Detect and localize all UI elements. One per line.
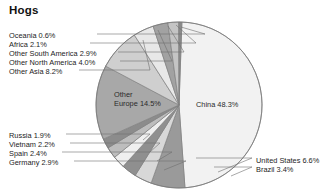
pie-label: Brazil 3.4% [256,165,293,174]
pie-label: Russia 1.9% [9,131,51,140]
pie-label: Germany 2.9% [9,158,58,167]
pie-label: Africa 2.1% [9,40,47,49]
pie-label-inside: China 48.3% [196,100,238,109]
pie-label: Spain 2.4% [9,149,47,158]
pie-label: Other South America 2.9% [9,49,97,58]
pie-label-inside: Other [114,90,132,99]
pie-label: United States 6.6% [256,156,319,165]
pie-label: Other North America 4.0% [9,58,95,67]
pie-chart-figure: Hogs Oceania 0.6%Africa 2.1%Other South … [0,0,334,194]
pie-label: Oceania 0.6% [9,31,55,40]
pie-label-inside: Europe 14.5% [114,99,161,108]
pie-label: Vietnam 2.2% [9,140,55,149]
pie-label: Other Asia 8.2% [9,67,62,76]
